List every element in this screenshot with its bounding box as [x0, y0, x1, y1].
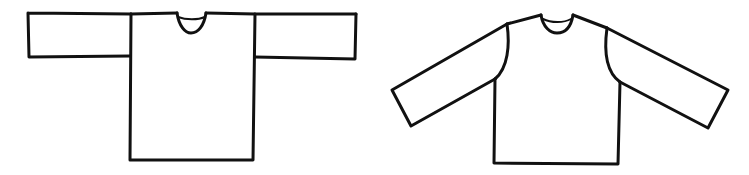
neckline [177, 13, 206, 33]
right-sleeve [607, 28, 728, 128]
garment-diagram [0, 0, 749, 175]
shirt-body [494, 79, 620, 164]
shoulder-line [131, 13, 356, 14]
left-armhole [495, 24, 508, 79]
left-sleeve [28, 13, 131, 57]
neckline-inner [178, 17, 205, 19]
diagram-svg [0, 0, 749, 175]
neckline [541, 15, 573, 33]
right-sleeve [255, 14, 356, 59]
right-armhole [606, 28, 620, 82]
shoulder-line-left [507, 15, 541, 24]
shoulder-line-right [573, 15, 607, 28]
t-shaped-tunic [28, 13, 356, 160]
tunic-body [130, 14, 255, 160]
neckline-inner [543, 19, 571, 22]
angled-sleeve-shirt [392, 15, 728, 164]
left-sleeve [392, 24, 507, 126]
